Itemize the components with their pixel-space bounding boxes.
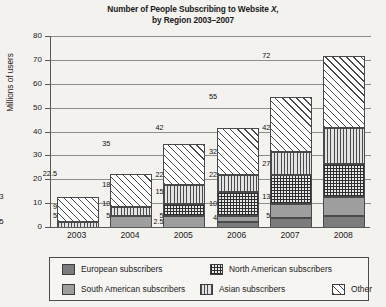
chart-legend: European subscribersNorth American subsc…: [49, 257, 369, 301]
legend-label: Asian subscribers: [219, 284, 285, 294]
bar-segment: [270, 204, 312, 218]
bar-2004: [110, 37, 152, 228]
bar-segment: [270, 97, 312, 152]
legend-swatch-icon: [62, 284, 75, 295]
chart-figure: Number of People Subscribing to Website …: [0, 0, 386, 307]
legend-label: European subscribers: [81, 264, 162, 274]
x-axis-tick-label: 2007: [260, 230, 320, 240]
x-axis-line: [50, 227, 370, 228]
bar-segment-value-label: 22: [148, 170, 164, 179]
bar-segment-value-label: 13: [0, 192, 4, 201]
y-axis-tick-label: 80: [20, 31, 42, 40]
bar-segment-value-label: 35: [94, 139, 110, 148]
bar-segment: [110, 174, 152, 206]
x-axis-tick-label: 2006: [207, 230, 267, 240]
bar-segment: [323, 56, 365, 128]
bar-segment-value-label: 5: [41, 211, 57, 220]
bar-segment-value-label: 5: [148, 211, 164, 220]
bar-2005: [163, 37, 205, 228]
x-axis-tick-label: 2004: [100, 230, 160, 240]
legend-label: Other: [351, 284, 372, 294]
bar-2007: [270, 37, 312, 228]
bar-segment-value-label: 2.5: [0, 217, 4, 226]
bar-segment: [163, 185, 205, 204]
bar-segment: [323, 128, 365, 164]
y-axis-tick-label: 60: [20, 79, 42, 88]
bar-segment: [323, 197, 365, 216]
bar-segment-value-label: 4: [201, 213, 217, 222]
bar-segment-value-label: 42: [148, 123, 164, 132]
bar-segment: [270, 175, 312, 204]
chart-title: Number of People Subscribing to Website …: [0, 4, 386, 26]
legend-item[interactable]: South American subscribers: [62, 284, 185, 295]
chart-title-line2: by Region 2003–2007: [152, 15, 234, 25]
y-axis-tick-label: 30: [20, 150, 42, 159]
y-axis-tick-label: 20: [20, 174, 42, 183]
y-axis-tick-label: 10: [20, 198, 42, 207]
bar-segment-value-label: 9: [41, 202, 57, 211]
bar-segment-value-label: 22.5: [41, 169, 57, 178]
bar-segment-value-label: 72: [254, 51, 270, 60]
bar-segment-value-label: 5: [254, 211, 270, 220]
y-axis-label: Millions of users: [6, 3, 15, 163]
bar-2008: [323, 37, 365, 228]
bar-segment-value-label: 27: [254, 159, 270, 168]
bar-segment: [270, 152, 312, 176]
bar-segment: [163, 144, 205, 185]
bar-segment-value-label: 32: [201, 147, 217, 156]
bar-segment-value-label: 5: [94, 211, 110, 220]
bar-segment: [217, 216, 259, 222]
bar-2003: [57, 37, 99, 228]
bar-segment: [57, 197, 99, 222]
legend-swatch-icon: [62, 264, 75, 275]
bar-segment: [217, 192, 259, 216]
chart-title-variable: X,: [271, 4, 279, 14]
bar-segment: [163, 204, 205, 216]
legend-swatch-icon: [332, 284, 345, 295]
x-axis-tick-label: 2005: [153, 230, 213, 240]
legend-swatch-icon: [210, 264, 223, 275]
y-axis-tick-label: 70: [20, 55, 42, 64]
legend-label: South American subscribers: [81, 284, 185, 294]
y-axis-tick-label: 0: [20, 222, 42, 231]
bar-segment-value-label: 22: [201, 170, 217, 179]
legend-item[interactable]: North American subscribers: [210, 264, 332, 275]
bar-segment-value-label: 42: [254, 123, 270, 132]
y-axis-tick-label: 40: [20, 127, 42, 136]
bar-segment: [110, 207, 152, 217]
bar-segment: [323, 164, 365, 197]
y-axis-tick-label: 50: [20, 103, 42, 112]
bar-segment-value-label: 13: [254, 192, 270, 201]
legend-item[interactable]: Other: [332, 284, 372, 295]
bar-segment: [217, 128, 259, 176]
bar-segment-value-label: 10: [94, 199, 110, 208]
legend-swatch-icon: [200, 284, 213, 295]
legend-label: North American subscribers: [229, 264, 332, 274]
bar-segment: [217, 175, 259, 192]
bar-2006: [217, 37, 259, 228]
chart-title-line1: Number of People Subscribing to Website: [107, 4, 271, 14]
x-axis-tick-label: 2008: [313, 230, 373, 240]
legend-item[interactable]: Asian subscribers: [200, 284, 285, 295]
legend-item[interactable]: European subscribers: [62, 264, 162, 275]
bar-segment-value-label: 10: [201, 199, 217, 208]
bar-segment-value-label: 15: [148, 187, 164, 196]
bar-segment-value-label: 55: [201, 92, 217, 101]
x-axis-tick-label: 2003: [47, 230, 107, 240]
bar-segment-value-label: 18: [94, 180, 110, 189]
